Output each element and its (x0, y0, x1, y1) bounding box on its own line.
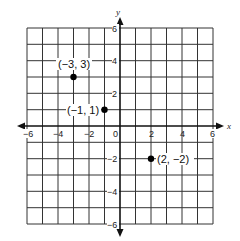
point-label: (2, −2) (157, 153, 189, 165)
y-axis-arrow-down (117, 229, 124, 237)
x-tick-label: −4 (53, 129, 63, 139)
x-tick-label: −2 (84, 129, 94, 139)
point-label: (−1, 1) (67, 104, 99, 116)
y-tick-label: −2 (107, 154, 117, 164)
point-marker (148, 156, 154, 162)
x-tick-label: 2 (149, 129, 154, 139)
x-axis-arrow-right (216, 123, 224, 130)
y-tick-label: −4 (107, 187, 117, 197)
x-tick-label: −6 (23, 129, 33, 139)
y-axis-name: y (115, 7, 120, 17)
point-label: (−3, 3) (58, 58, 90, 70)
x-tick-label: 6 (210, 129, 215, 139)
point-marker (101, 107, 107, 113)
y-tick-label: 4 (112, 56, 117, 66)
coordinate-plane: x y −6 −4 −2 0 2 4 6 6 4 2 −2 −4 −6 (−3,… (0, 0, 240, 241)
y-tick-label: 6 (112, 24, 117, 34)
y-axis-arrow-up (117, 17, 124, 25)
point-marker (70, 74, 76, 80)
x-tick-label: 4 (180, 129, 185, 139)
y-tick-label: −6 (107, 220, 117, 230)
x-tick-label: 0 (113, 129, 118, 139)
y-tick-label: 2 (112, 89, 117, 99)
x-axis-name: x (226, 121, 231, 131)
